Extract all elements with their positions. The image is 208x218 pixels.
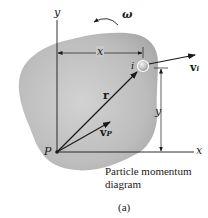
x-axis-label: x [196, 145, 202, 156]
caption-line-1: Particle momentum [105, 166, 191, 177]
point-p-label: P [44, 146, 51, 157]
omega-rotation-arrow [94, 19, 118, 25]
vp-label: vP [100, 127, 112, 138]
vi-label-sub: i [196, 64, 199, 73]
vp-label-sub: P [106, 129, 111, 138]
caption-line-2: diagram [105, 179, 141, 190]
rigid-body-shape [19, 33, 158, 171]
particle-i [138, 61, 149, 72]
y-axis-label: y [54, 7, 60, 18]
point-p-dot [55, 150, 59, 154]
rigid-body-diagram [0, 0, 208, 218]
subfigure-label: (a) [118, 202, 130, 213]
y-dimension-label: y [155, 106, 161, 117]
x-dimension-label: x [96, 46, 104, 57]
r-label: r [103, 90, 109, 101]
particle-label: i [131, 61, 134, 71]
vi-label: vi [190, 62, 199, 73]
omega-label: ω [122, 9, 132, 20]
